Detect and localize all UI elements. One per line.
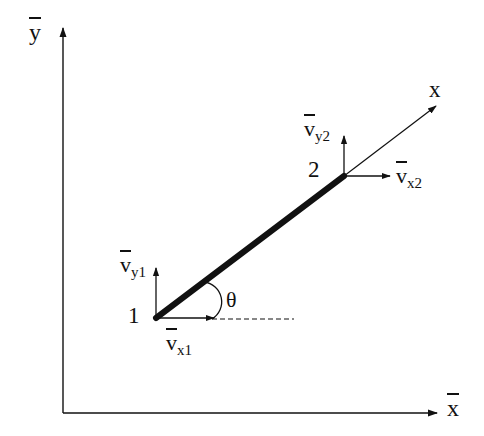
node2-vy-symbol: v: [304, 116, 315, 141]
local-x-axis: [344, 106, 436, 176]
beam-element: [156, 176, 344, 318]
node1-vx-subscript: x1: [177, 342, 192, 358]
node2-vy-label: vy2: [304, 118, 330, 140]
global-x-axis-label: x: [447, 396, 459, 420]
node2-vx-subscript: x2: [407, 175, 422, 191]
node2-vx-symbol: v: [396, 163, 407, 188]
node2-vy-subscript: y2: [315, 128, 330, 144]
node-2-point: [342, 174, 347, 179]
node-1-point: [154, 316, 159, 321]
node-2-label: 2: [308, 158, 320, 181]
node1-vx-symbol: v: [166, 330, 177, 355]
global-y-axis-label: y: [29, 20, 41, 44]
node1-vy-subscript: y1: [131, 264, 146, 280]
theta-arc: [204, 282, 222, 319]
theta-label: θ: [226, 289, 237, 311]
node1-vy-label: vy1: [120, 254, 146, 276]
beam-element-diagram: [0, 0, 484, 436]
node1-vx-label: vx1: [166, 332, 192, 354]
node2-vx-label: vx2: [396, 165, 422, 187]
node-1-label: 1: [128, 304, 140, 327]
node1-vy-symbol: v: [120, 252, 131, 277]
local-x-axis-label: x: [429, 78, 441, 101]
